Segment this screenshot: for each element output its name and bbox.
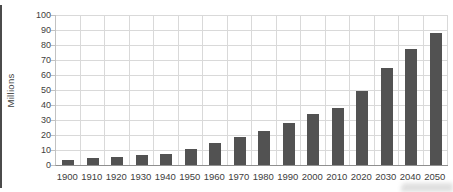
y-axis-tick: [51, 75, 55, 76]
y-axis-tick: [51, 120, 55, 121]
x-tick-label: 1970: [228, 171, 249, 182]
y-axis-tick: [51, 15, 55, 16]
x-tick-label: 2040: [400, 171, 421, 182]
h-gridline: [56, 15, 448, 16]
y-tick-label: 80: [24, 40, 51, 50]
scan-smudge-artifact: [401, 183, 453, 192]
y-axis-tick: [51, 105, 55, 106]
v-gridline: [423, 15, 424, 165]
x-tick-label: 1990: [277, 171, 298, 182]
v-gridline: [178, 15, 179, 165]
x-tick-label: 1900: [57, 171, 78, 182]
v-gridline: [251, 15, 252, 165]
v-gridline: [227, 15, 228, 165]
y-tick-label: 50: [24, 85, 51, 95]
v-gridline: [276, 15, 277, 165]
v-gridline: [129, 15, 130, 165]
v-gridline: [104, 15, 105, 165]
bar: [62, 160, 74, 165]
v-gridline: [202, 15, 203, 165]
bar: [405, 49, 417, 165]
bar: [185, 149, 197, 166]
chart-figure: Millions 0102030405060708090100190019101…: [0, 0, 453, 192]
bar: [430, 33, 442, 165]
y-axis-title-text: Millions: [5, 73, 16, 107]
x-tick-label: 1930: [130, 171, 151, 182]
v-gridline: [349, 15, 350, 165]
y-tick-label: 70: [24, 55, 51, 65]
v-gridline: [325, 15, 326, 165]
x-tick-label: 1960: [204, 171, 225, 182]
h-gridline: [56, 60, 448, 61]
y-axis-tick: [51, 60, 55, 61]
x-tick-label: 1980: [253, 171, 274, 182]
y-axis-title: Millions: [2, 15, 18, 165]
v-gridline: [153, 15, 154, 165]
y-tick-label: 0: [24, 160, 51, 170]
x-tick-label: 2010: [326, 171, 347, 182]
y-tick-label: 90: [24, 25, 51, 35]
h-gridline: [56, 30, 448, 31]
y-tick-label: 30: [24, 115, 51, 125]
x-tick-label: 1910: [81, 171, 102, 182]
x-tick-label: 2020: [351, 171, 372, 182]
v-gridline: [447, 15, 448, 165]
bar: [87, 158, 99, 165]
y-tick-label: 40: [24, 100, 51, 110]
bar: [136, 155, 148, 165]
v-gridline: [300, 15, 301, 165]
bar: [356, 91, 368, 165]
v-gridline: [80, 15, 81, 165]
y-tick-label: 100: [24, 10, 51, 20]
bar: [209, 143, 221, 166]
x-tick-label: 1950: [179, 171, 200, 182]
bar: [307, 114, 319, 165]
x-tick-label: 2000: [302, 171, 323, 182]
y-axis-tick: [51, 30, 55, 31]
bar: [160, 154, 172, 165]
y-tick-label: 60: [24, 70, 51, 80]
x-tick-label: 1920: [106, 171, 127, 182]
h-gridline: [56, 45, 448, 46]
v-gridline: [374, 15, 375, 165]
v-gridline: [398, 15, 399, 165]
bar: [258, 131, 270, 165]
x-tick-label: 1940: [155, 171, 176, 182]
bar: [283, 123, 295, 165]
bar: [381, 68, 393, 166]
y-axis-tick: [51, 150, 55, 151]
y-tick-label: 20: [24, 130, 51, 140]
x-tick-label: 2050: [424, 171, 445, 182]
plot-area: [55, 15, 448, 166]
y-axis-tick: [51, 165, 55, 166]
y-axis-tick: [51, 45, 55, 46]
y-axis-tick: [51, 135, 55, 136]
bar: [234, 137, 246, 165]
x-tick-label: 2030: [375, 171, 396, 182]
bar: [332, 108, 344, 165]
y-axis-tick: [51, 90, 55, 91]
bar: [111, 157, 123, 165]
y-tick-label: 10: [24, 145, 51, 155]
